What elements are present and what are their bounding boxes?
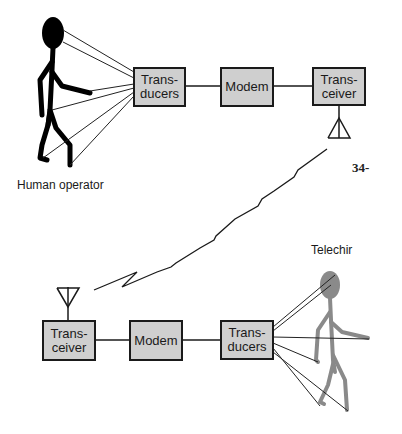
antenna-icon-bottom — [57, 287, 79, 320]
modem-box-bottom: Modem — [129, 320, 183, 361]
modem-label-top: Modem — [225, 80, 268, 94]
transceiver-box-top: Trans- ceiver — [312, 67, 366, 106]
page-number: 34- — [352, 160, 369, 176]
transducers-label-top: Trans- ducers — [140, 73, 179, 101]
transducers-label-bottom: Trans- ducers — [227, 326, 266, 354]
diagram-canvas — [0, 0, 402, 434]
human-operator-label: Human operator — [17, 178, 104, 192]
transducers-box-bottom: Trans- ducers — [220, 320, 274, 360]
transceiver-label-top: Trans- ceiver — [320, 73, 357, 101]
transceiver-label-bottom: Trans- ceiver — [50, 327, 87, 355]
telechir-actuator-wires — [273, 275, 369, 411]
radio-link-zigzag-icon — [94, 149, 327, 290]
antenna-icon-top — [328, 105, 350, 138]
transceiver-box-bottom: Trans- ceiver — [42, 320, 96, 361]
telechir-label: Telechir — [311, 243, 352, 257]
modem-box-top: Modem — [220, 67, 274, 107]
telechir-figure — [316, 271, 368, 410]
human-sensor-wires — [43, 30, 134, 165]
modem-label-bottom: Modem — [134, 334, 177, 348]
transducers-box-top: Trans- ducers — [133, 67, 186, 107]
human-operator-figure — [40, 17, 90, 165]
